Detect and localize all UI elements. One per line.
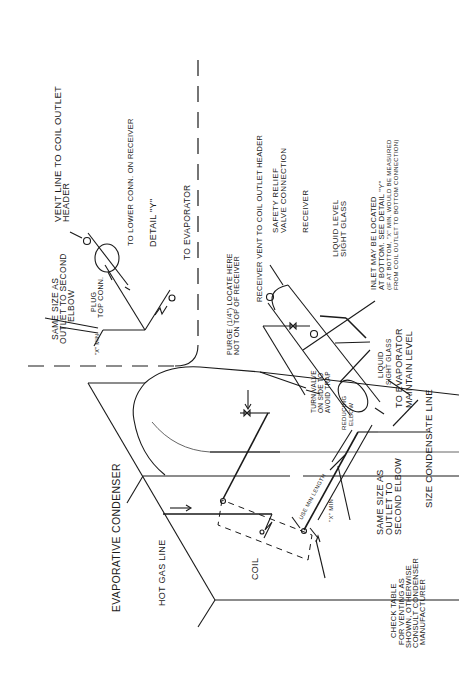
note-turn-valve: TURN VALVE ON SIDE TO AVOID TRAP xyxy=(310,370,331,413)
note-liquid-sight-glass: LIQUID SIGHT GLASS xyxy=(376,338,392,385)
note-reducing-elbow: REDUCING ELBOW xyxy=(341,396,354,430)
note-same-size-bottom: SAME SIZE AS OUTLET TO SECOND ELBOW xyxy=(375,458,403,535)
svg-text:TURN VALVE: TURN VALVE xyxy=(310,370,317,413)
note-inlet-location: INLET MAY BE LOCATED AT BOTTOM. SEE DETA… xyxy=(369,139,399,290)
svg-text:AVOID TRAP: AVOID TRAP xyxy=(324,371,331,413)
label-to-evaporator-detail: TO EVAPORATOR xyxy=(182,184,192,260)
svg-text:REDUCING: REDUCING xyxy=(341,396,347,430)
note-plug-top-conn: PLUG TOP CONN. xyxy=(90,277,104,318)
label-x-min-bottom: "X" MIN xyxy=(328,499,334,522)
svg-text:TO EVAPORATOR: TO EVAPORATOR xyxy=(394,328,404,408)
svg-text:LIQUID: LIQUID xyxy=(376,351,385,378)
label-to-lower-conn: TO LOWER CONN. ON RECEIVER xyxy=(126,118,135,246)
svg-text:ELBOW: ELBOW xyxy=(66,290,76,322)
svg-text:FROM COIL OUTLET TO BOTTOM CON: FROM COIL OUTLET TO BOTTOM CONNECTION) xyxy=(393,139,399,290)
svg-text:NOT ON TOP OF RECEIVER: NOT ON TOP OF RECEIVER xyxy=(233,256,240,355)
label-coil: COIL xyxy=(250,558,260,580)
svg-text:HEADER: HEADER xyxy=(61,182,71,222)
note-to-evaporator-maintain: TO EVAPORATOR MAINTAIN LEVEL xyxy=(394,328,414,408)
label-receiver-vent: RECEIVER VENT TO COIL OUTLET HEADER xyxy=(255,135,264,302)
svg-text:AT BOTTOM. SEE DETAIL "Y": AT BOTTOM. SEE DETAIL "Y" xyxy=(377,180,386,290)
svg-text:(IF AT BOTTOM, "X" MIN. WOULD: (IF AT BOTTOM, "X" MIN. WOULD BE MEASURE… xyxy=(386,139,392,290)
svg-text:SIGHT GLASS: SIGHT GLASS xyxy=(339,200,348,257)
note-safety-relief: SAFETY RELIEF VALVE CONNECTION xyxy=(271,148,288,233)
label-detail-y: DETAIL "Y" xyxy=(148,199,158,247)
label-receiver: RECEIVER xyxy=(301,190,310,233)
vent-riser xyxy=(223,390,270,499)
label-hot-gas-line: HOT GAS LINE xyxy=(157,540,167,606)
svg-text:ELBOW: ELBOW xyxy=(348,403,354,426)
note-liquid-level-sight-glass: LIQUID LEVEL SIGHT GLASS xyxy=(331,199,348,257)
svg-text:VALVE CONNECTION: VALVE CONNECTION xyxy=(279,148,288,233)
svg-text:SECOND ELBOW: SECOND ELBOW xyxy=(393,458,403,535)
svg-text:SIGHT GLASS: SIGHT GLASS xyxy=(385,338,392,385)
condensate-line xyxy=(292,425,430,538)
note-same-size-top: SAME SIZE AS OUTLET TO SECOND ELBOW xyxy=(50,253,76,344)
coil-outline xyxy=(218,499,312,561)
hot-gas-line xyxy=(163,505,272,514)
svg-text:TOP CONN.: TOP CONN. xyxy=(97,277,104,318)
svg-text:ON SIDE TO: ON SIDE TO xyxy=(317,373,324,413)
note-vent-line: VENT LINE TO COIL OUTLET HEADER xyxy=(52,86,71,222)
piping-diagram: EVAPORATIVE CONDENSER HOT GAS LINE COIL … xyxy=(0,0,459,696)
svg-text:MANUFACTURER: MANUFACTURER xyxy=(418,579,427,645)
label-x-min-top: "X" MIN. xyxy=(94,332,100,355)
label-evaporative-condenser: EVAPORATIVE CONDENSER xyxy=(110,463,122,612)
svg-text:PLUG: PLUG xyxy=(90,292,97,312)
note-check-table: CHECK TABLE FOR VENTING AS SHOWN, OTHERW… xyxy=(389,557,427,648)
svg-text:MAINTAIN LEVEL: MAINTAIN LEVEL xyxy=(404,331,414,408)
note-purge: PURGE (1/4") LOCATE HERE NOT ON TOP OF R… xyxy=(226,253,240,355)
label-size-condensate-line: SIZE CONDENSATE LINE xyxy=(423,389,434,508)
receiver-vent-pipe xyxy=(263,323,310,395)
